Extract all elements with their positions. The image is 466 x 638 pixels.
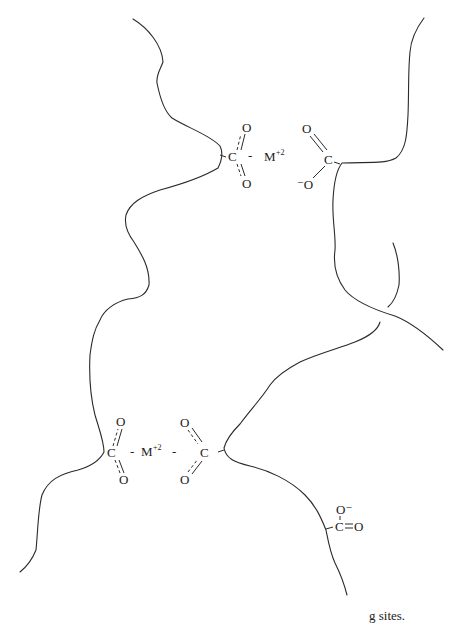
oxygen-atom: O bbox=[119, 472, 128, 487]
oxygen-atom: O bbox=[302, 121, 311, 136]
bond-chain-to-carboxylate bbox=[218, 450, 224, 452]
carboxylate-top-left: C O O - bbox=[228, 120, 252, 191]
bond-chain-to-carboxylate bbox=[326, 527, 333, 529]
polymer-crosslink-diagram: C O O - M +2 O C ⁻O C O O - M +2 - bbox=[0, 0, 466, 638]
carboxylate-bottom-right: O C O bbox=[180, 415, 209, 487]
oxygen-atom: O bbox=[116, 414, 125, 429]
metal-charge: +2 bbox=[153, 443, 162, 452]
ionic-bond-dash: - bbox=[130, 444, 134, 459]
carbon-atom: C bbox=[200, 445, 209, 460]
oxygen-atom: O bbox=[242, 120, 251, 135]
metal-ion-top: M +2 bbox=[264, 148, 285, 164]
carbon-atom: C bbox=[335, 519, 344, 534]
polymer-chain-right-lower bbox=[224, 322, 380, 595]
metal-symbol: M bbox=[141, 444, 153, 459]
ionic-bond-dash: - bbox=[172, 444, 176, 459]
bond-chain-to-carboxylate bbox=[334, 162, 340, 164]
carbon-atom: C bbox=[324, 152, 333, 167]
polymer-chain-fragment bbox=[388, 243, 399, 307]
oxygen-atom: O bbox=[180, 472, 189, 487]
polymer-chain-right-upper bbox=[333, 18, 443, 350]
negative-oxygen-atom: ⁻O bbox=[297, 177, 313, 192]
polymer-chain-left bbox=[20, 19, 222, 572]
oxygen-atom: O bbox=[180, 415, 189, 430]
oxygen-atom: O bbox=[354, 519, 363, 534]
metal-symbol: M bbox=[264, 149, 276, 164]
carboxylate-bottom-left: C O O - bbox=[107, 414, 134, 487]
metal-charge: +2 bbox=[276, 148, 285, 157]
figure-caption-fragment: g sites. bbox=[369, 608, 405, 624]
negative-oxygen-atom: O⁻ bbox=[336, 502, 352, 517]
metal-ion-bottom: M +2 - bbox=[141, 443, 176, 459]
oxygen-atom: O bbox=[242, 176, 251, 191]
ionic-bond-dash: - bbox=[248, 148, 252, 163]
bond-chain-to-carboxylate bbox=[220, 155, 226, 157]
carbon-atom: C bbox=[107, 445, 116, 460]
carboxylate-top-right: O C ⁻O bbox=[297, 121, 333, 192]
carbon-atom: C bbox=[228, 149, 237, 164]
carboxylate-free: O⁻ C O bbox=[335, 502, 363, 534]
